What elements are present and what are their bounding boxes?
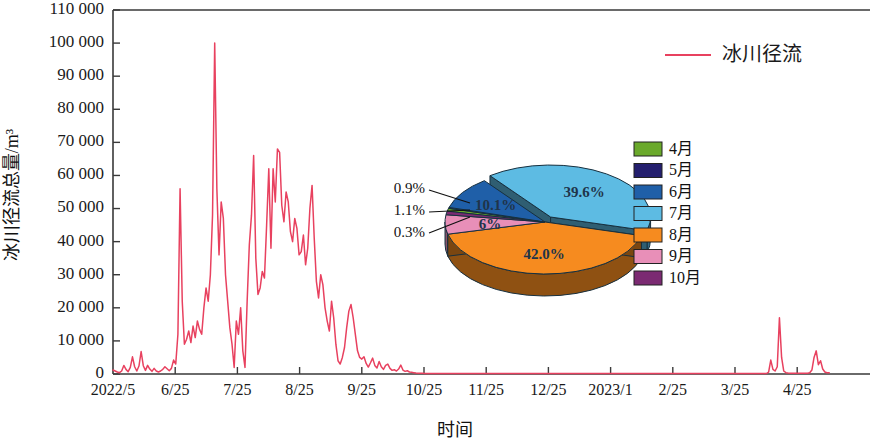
- y-tick-label: 100 000: [49, 32, 104, 51]
- pie-legend-label-6月: 6月: [669, 183, 693, 200]
- x-tick-label: 8/25: [285, 381, 313, 398]
- glacier-runoff-figure: 冰川径流总量/m³ 时间 010 00020 00030 00040 00050…: [0, 0, 877, 441]
- pie-legend-label-10月: 10月: [669, 269, 701, 286]
- x-axis-ticks: 2022/56/257/258/259/2510/2511/2512/25202…: [91, 367, 812, 398]
- y-tick-label: 30 000: [57, 264, 104, 283]
- y-axis-ticks: 010 00020 00030 00040 00050 00060 00070 …: [49, 0, 120, 382]
- pie-legend-swatch-9月: [634, 250, 662, 264]
- inset-pie-chart: 10.1%39.6%42.0%6%: [445, 165, 651, 296]
- x-tick-label: 2023/1: [588, 381, 632, 398]
- pie-legend: 4月5月6月7月8月9月10月: [634, 140, 701, 286]
- pie-legend-label-9月: 9月: [669, 247, 693, 264]
- x-tick-label: 7/25: [223, 381, 251, 398]
- pie-legend-label-7月: 7月: [669, 204, 693, 221]
- pie-callout-label-1: 0.9%: [394, 180, 425, 196]
- pie-slice-label-6月: 10.1%: [475, 197, 516, 213]
- x-tick-label: 12/25: [530, 381, 566, 398]
- pie-legend-swatch-8月: [634, 228, 662, 242]
- y-tick-label: 20 000: [57, 297, 104, 316]
- pie-legend-swatch-7月: [634, 207, 662, 221]
- series-legend: 冰川径流: [665, 43, 802, 65]
- pie-callout-label-2: 1.1%: [394, 202, 425, 218]
- x-tick-label: 10/25: [406, 381, 442, 398]
- legend-label-runoff: 冰川径流: [722, 43, 802, 65]
- y-tick-label: 110 000: [49, 0, 104, 18]
- x-tick-label: 4/25: [783, 381, 811, 398]
- y-tick-label: 70 000: [57, 131, 104, 150]
- pie-legend-swatch-5月: [634, 164, 662, 178]
- x-tick-label: 11/25: [468, 381, 504, 398]
- x-tick-label: 2022/5: [91, 381, 135, 398]
- pie-slice-label-8月: 42.0%: [523, 246, 564, 262]
- y-tick-label: 40 000: [57, 231, 104, 250]
- x-tick-label: 6/25: [161, 381, 189, 398]
- pie-slice-label-7月: 39.6%: [563, 184, 604, 200]
- pie-legend-swatch-4月: [634, 142, 662, 156]
- y-tick-label: 10 000: [57, 330, 104, 349]
- chart-canvas: 冰川径流总量/m³ 时间 010 00020 00030 00040 00050…: [0, 0, 877, 441]
- y-tick-label: 80 000: [57, 98, 104, 117]
- pie-callout-label-3: 0.3%: [394, 224, 425, 240]
- x-axis-title: 时间: [437, 420, 473, 440]
- x-tick-label: 3/25: [721, 381, 749, 398]
- y-axis-title: 冰川径流总量/m³: [2, 128, 22, 261]
- y-tick-label: 60 000: [57, 164, 104, 183]
- x-tick-label: 9/25: [348, 381, 376, 398]
- pie-legend-label-8月: 8月: [669, 226, 693, 243]
- y-tick-label: 50 000: [57, 197, 104, 216]
- y-tick-label: 90 000: [57, 65, 104, 84]
- y-tick-label: 0: [96, 363, 105, 382]
- x-tick-label: 2/25: [659, 381, 687, 398]
- pie-legend-swatch-6月: [634, 185, 662, 199]
- pie-legend-label-5月: 5月: [669, 161, 693, 178]
- pie-legend-label-4月: 4月: [669, 140, 693, 157]
- pie-legend-swatch-10月: [634, 271, 662, 285]
- pie-slice-label-9月: 6%: [479, 216, 502, 232]
